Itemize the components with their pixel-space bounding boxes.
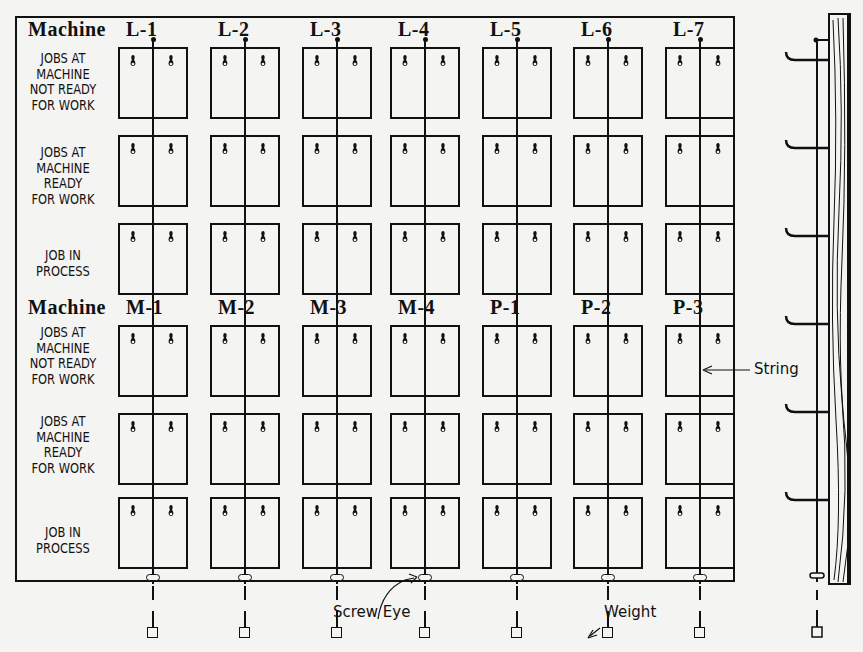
string-to-weight: [244, 611, 246, 628]
hook-icon: [676, 141, 684, 154]
string-to-weight: [516, 611, 518, 628]
hook-icon: [313, 141, 321, 154]
hook-icon: [439, 53, 447, 66]
hook-icon: [622, 53, 630, 66]
string-to-weight: [699, 611, 701, 628]
weight-icon[interactable]: [694, 627, 705, 638]
hook-icon: [259, 229, 267, 242]
machine-column-label: M-3: [310, 296, 347, 319]
hook-icon: [221, 331, 229, 344]
hook-icon: [493, 53, 501, 66]
hook-icon: [531, 331, 539, 344]
machine-header-label: Machine: [28, 18, 106, 41]
string-below-frame: [699, 586, 701, 600]
hook-icon: [167, 331, 175, 344]
string-top-knot: [606, 37, 611, 42]
hook-icon: [584, 419, 592, 432]
string-top-knot: [698, 37, 703, 42]
string-below-frame: [516, 586, 518, 600]
indicator-string[interactable]: [336, 39, 338, 584]
string-below-frame: [607, 586, 609, 600]
hook-icon: [531, 503, 539, 516]
hook-icon: [259, 503, 267, 516]
indicator-string[interactable]: [699, 39, 701, 584]
string-label: String: [754, 360, 799, 378]
string-top-knot: [423, 37, 428, 42]
hook-icon: [351, 229, 359, 242]
hook-icon: [351, 419, 359, 432]
hook-icon: [676, 503, 684, 516]
hook-icon: [351, 503, 359, 516]
row-label: JOBS AT MACHINE READY FOR WORK: [13, 414, 113, 476]
weight-icon[interactable]: [147, 627, 158, 638]
row-label: JOBS AT MACHINE NOT READY FOR WORK: [13, 51, 113, 113]
hook-icon: [584, 331, 592, 344]
weight-icon[interactable]: [239, 627, 250, 638]
hook-icon: [493, 229, 501, 242]
screw-eye-icon: [238, 574, 252, 581]
hook-icon: [584, 229, 592, 242]
hook-icon: [167, 503, 175, 516]
hook-icon: [676, 331, 684, 344]
hook-icon: [622, 141, 630, 154]
hook-icon: [401, 419, 409, 432]
hook-icon: [221, 503, 229, 516]
hook-icon: [622, 503, 630, 516]
hook-icon: [221, 229, 229, 242]
string-to-weight: [152, 611, 154, 628]
hook-icon: [167, 229, 175, 242]
weight-icon[interactable]: [511, 627, 522, 638]
hook-icon: [313, 229, 321, 242]
hook-icon: [714, 53, 722, 66]
hook-icon: [167, 419, 175, 432]
hook-icon: [129, 419, 137, 432]
row-label: JOB IN PROCESS: [13, 525, 113, 556]
indicator-string[interactable]: [516, 39, 518, 584]
indicator-string[interactable]: [607, 39, 609, 584]
hook-icon: [531, 419, 539, 432]
hook-icon: [259, 53, 267, 66]
string-below-frame: [424, 586, 426, 600]
screw-eye-icon: [693, 574, 707, 581]
hook-icon: [584, 503, 592, 516]
screw-eye-label: Screw Eye: [333, 603, 410, 621]
hook-icon: [531, 229, 539, 242]
hook-icon: [221, 53, 229, 66]
weight-icon[interactable]: [419, 627, 430, 638]
indicator-string[interactable]: [424, 39, 426, 584]
string-top-knot: [335, 37, 340, 42]
hook-icon: [439, 141, 447, 154]
hook-icon: [714, 141, 722, 154]
indicator-string[interactable]: [152, 39, 154, 584]
hook-icon: [401, 331, 409, 344]
hook-icon: [714, 331, 722, 344]
screw-eye-icon: [418, 574, 432, 581]
machine-column-label: M-1: [126, 296, 163, 319]
indicator-string[interactable]: [244, 39, 246, 584]
hook-icon: [313, 53, 321, 66]
hook-icon: [401, 229, 409, 242]
hook-icon: [714, 503, 722, 516]
screw-eye-icon: [601, 574, 615, 581]
weight-icon[interactable]: [331, 627, 342, 638]
string-top-knot: [151, 37, 156, 42]
hook-icon: [351, 53, 359, 66]
weight-icon[interactable]: [602, 627, 613, 638]
hook-icon: [493, 141, 501, 154]
hook-icon: [351, 141, 359, 154]
string-to-weight: [424, 611, 426, 628]
hook-icon: [129, 141, 137, 154]
hook-icon: [259, 141, 267, 154]
hook-icon: [676, 53, 684, 66]
string-below-frame: [244, 586, 246, 600]
hook-icon: [676, 419, 684, 432]
hook-icon: [584, 53, 592, 66]
string-top-knot: [515, 37, 520, 42]
hook-icon: [129, 331, 137, 344]
hook-icon: [221, 141, 229, 154]
hook-icon: [129, 53, 137, 66]
hook-icon: [493, 503, 501, 516]
hook-icon: [129, 229, 137, 242]
hook-icon: [622, 331, 630, 344]
hook-icon: [439, 419, 447, 432]
